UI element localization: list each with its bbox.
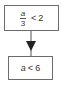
less-than-operator: < [28,64,33,73]
bottom-condition-box: a < 6 [8,56,53,80]
arrowhead-down-icon [26,41,36,51]
fraction: a 3 [20,9,26,28]
fraction-denominator: 3 [21,19,25,28]
fraction-numerator: a [20,9,26,19]
condition-value: 6 [35,64,40,73]
condition-value: 2 [38,14,43,23]
top-condition-box: a 3 < 2 [4,5,59,31]
less-than-operator: < [31,14,36,23]
variable: a [21,64,26,73]
